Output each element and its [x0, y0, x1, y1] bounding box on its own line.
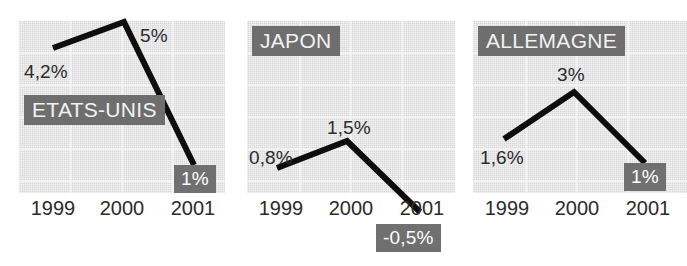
value-label-2000-allemagne: 3%: [557, 65, 585, 84]
year-label-2001-allemagne: 2001: [603, 198, 687, 218]
value-badge-2001-etats-unis: 1%: [174, 165, 216, 193]
value-label-1999-allemagne: 1,6%: [480, 148, 524, 167]
value-badge-2001-japon: -0,5%: [376, 224, 441, 252]
value-label-2000-etats-unis: 5%: [140, 26, 168, 45]
chart-figure: 4,2% 5% 1% ETATS-UNIS 1999 2000 2001 0,8…: [0, 0, 687, 266]
country-badge-japon: JAPON: [252, 26, 340, 56]
year-label-2001-etats-unis: 2001: [148, 198, 238, 218]
year-label-2001-japon: 2001: [377, 198, 467, 218]
value-label-1999-japon: 0,8%: [249, 148, 293, 167]
country-badge-allemagne: ALLEMAGNE: [478, 26, 625, 56]
value-label-2000-japon: 1,5%: [327, 118, 371, 137]
value-label-1999-etats-unis: 4,2%: [24, 62, 68, 81]
value-badge-2001-allemagne: 1%: [624, 163, 666, 191]
country-badge-etats-unis: ETATS-UNIS: [24, 95, 165, 125]
